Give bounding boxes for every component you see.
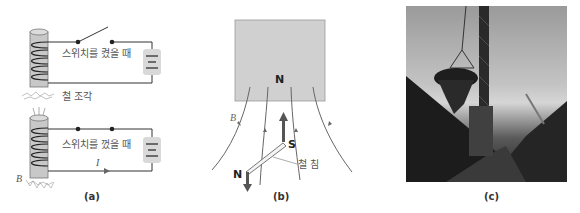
caption-c: (c) xyxy=(484,191,499,202)
needle-n-label: N xyxy=(233,168,242,181)
field-label-b: B xyxy=(230,112,236,123)
panel-a: 스위치를 켰을 때 철 조각 xyxy=(0,0,200,213)
field-label-a: B xyxy=(16,173,22,184)
magnet-field-diagram: N B S N 철 침 xyxy=(200,0,380,213)
caption-b: (b) xyxy=(273,191,289,202)
switch-off-label: 스위치를 껐을 때 xyxy=(62,138,131,150)
electromagnet-circuit-diagram: 스위치를 켰을 때 철 조각 xyxy=(0,0,200,213)
switch-on-label: 스위치를 켰을 때 xyxy=(62,47,131,59)
bottom-circuit: 스위치를 껐을 때 I B xyxy=(16,107,161,188)
photo-illustration xyxy=(406,6,567,182)
top-circuit: 스위치를 켰을 때 철 조각 xyxy=(22,27,161,102)
crane-electromagnet-photo xyxy=(406,6,567,182)
needle-label: 철 침 xyxy=(298,159,319,170)
iron-debris-label: 철 조각 xyxy=(62,91,92,102)
compass-needle xyxy=(246,143,286,174)
panel-b: N B S N 철 침 (b) xyxy=(200,0,380,213)
caption-a: (a) xyxy=(84,191,100,202)
needle-s-label: S xyxy=(288,138,296,151)
bar-magnet xyxy=(235,20,325,101)
magnet-n-pole: N xyxy=(275,73,284,86)
current-label: I xyxy=(95,157,100,168)
